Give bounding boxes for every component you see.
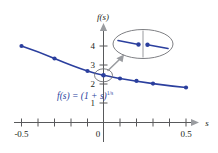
equation-exponent: 1/s [107,90,114,96]
data-point [19,44,23,48]
y-axis-arrowhead [100,23,107,31]
data-point [134,79,138,83]
inset-point-left [136,42,140,46]
inset-point-right [145,43,149,47]
y-axis [100,23,107,142]
data-point [118,76,122,80]
equation-text: f(s) = (1 + s) [57,91,107,102]
y-axis-title: f(s) [97,12,109,22]
y-tick-label-4: 4 [91,41,96,51]
data-point [85,69,89,73]
callout-pointer-arrow [108,55,124,71]
origin-label: 0 [96,129,101,139]
x-axis [14,119,199,126]
chart-svg: -0.5 0 0.5 1 2 3 4 f(s) s [0,0,218,153]
data-point [101,73,106,78]
data-point [151,82,155,86]
equation-label: f(s) = (1 + s)1/s [57,90,113,102]
data-point [184,85,188,89]
x-axis-arrowhead [191,119,199,126]
data-point [52,56,56,60]
x-tick-label-min: -0.5 [14,129,29,139]
svg-text:f(s) = (1 + s)1/s: f(s) = (1 + s)1/s [57,90,113,102]
y-tick-label-3: 3 [91,60,96,70]
figure-canvas: -0.5 0 0.5 1 2 3 4 f(s) s [0,0,218,153]
inset-curve-left [118,41,139,45]
y-tick-label-2: 2 [91,79,96,89]
x-tick-label-max: 0.5 [180,129,192,139]
inset-curve-right [148,45,169,49]
x-axis-title: s [205,118,209,128]
magnifier-inset [113,30,173,59]
